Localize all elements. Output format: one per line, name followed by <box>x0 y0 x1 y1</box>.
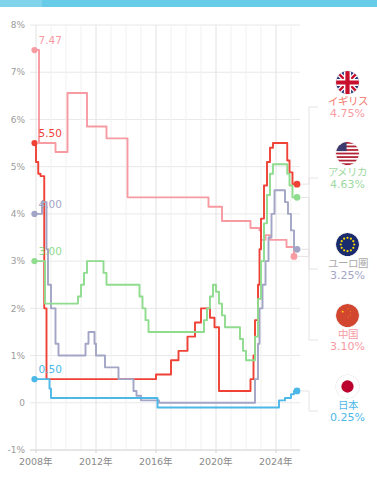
series-start-marker-0[interactable] <box>31 47 37 53</box>
legend-leader-1 <box>301 178 318 184</box>
series-line-0[interactable] <box>35 50 295 256</box>
start-value-label-4: 0.50 <box>39 363 62 375</box>
start-value-label-2: 4.00 <box>39 198 62 210</box>
legend-item-value: 3.10% <box>318 340 377 353</box>
uk-flag-icon <box>336 71 359 94</box>
jp-flag-icon <box>336 375 359 398</box>
series-line-3[interactable] <box>35 164 298 360</box>
legend-item-value: 4.63% <box>318 178 377 191</box>
y-axis-tick-label: 2% <box>11 304 26 314</box>
legend-item-label: アメリカ <box>318 166 377 178</box>
x-axis-tick-label: 2012年 <box>79 456 113 467</box>
legend-item-3[interactable]: 中国3.10% <box>318 304 377 353</box>
legend-leader-4 <box>301 391 318 411</box>
start-value-label-1: 5.50 <box>39 127 62 139</box>
legend-item-label: 日本 <box>318 399 377 411</box>
legend-item-0[interactable]: イギリス4.75% <box>318 71 377 120</box>
start-value-annotations: 7.475.504.003.000.50 <box>39 34 62 375</box>
x-axis-tick-label: 2020年 <box>199 456 233 467</box>
legend-item-1[interactable]: アメリカ4.63% <box>318 142 377 191</box>
y-axis-tick-label: -1% <box>7 445 25 455</box>
legend-leader-lines <box>298 107 318 411</box>
start-value-label-3: 3.00 <box>39 245 62 257</box>
eu-flag-icon <box>336 233 359 256</box>
policy-rate-chart-widget: 8%7%6%5%4%3%2%1%0-1% 2008年2012年2016年2020… <box>0 0 377 482</box>
y-axis-tick-label: 8% <box>11 20 26 30</box>
start-value-label-0: 7.47 <box>39 34 62 46</box>
legend-item-value: 0.25% <box>318 411 377 424</box>
series-start-marker-1[interactable] <box>31 140 37 146</box>
cn-flag-icon <box>336 304 359 327</box>
grid-lines <box>30 25 300 450</box>
uk-flag-icon <box>336 71 359 94</box>
series-end-marker-4[interactable] <box>294 388 301 395</box>
eu-flag-icon <box>336 233 359 256</box>
y-axis-tick-label: 6% <box>11 115 26 125</box>
x-axis-tick-label: 2016年 <box>139 456 173 467</box>
x-axis-ticks: 2008年2012年2016年2020年2024年 <box>19 450 300 467</box>
legend-item-label: 中国 <box>318 328 377 340</box>
y-axis-tick-label: 4% <box>11 209 26 219</box>
y-axis-tick-label: 1% <box>11 351 26 361</box>
series-end-marker-1[interactable] <box>294 181 301 188</box>
legend-item-label: ユーロ圏 <box>318 257 377 269</box>
y-axis-ticks: 8%7%6%5%4%3%2%1%0-1% <box>7 20 25 455</box>
legend-item-2[interactable]: ユーロ圏3.25% <box>318 233 377 282</box>
series-end-marker-0[interactable] <box>291 253 298 260</box>
legend-item-4[interactable]: 日本0.25% <box>318 375 377 424</box>
chart-legend[interactable]: イギリス4.75%アメリカ4.63%ユーロ圏3.25%中国3.10%日本0.25… <box>318 7 377 482</box>
series-start-marker-3[interactable] <box>31 258 37 264</box>
legend-item-value: 4.75% <box>318 107 377 120</box>
us-flag-icon <box>336 142 359 165</box>
x-axis-tick-label: 2008年 <box>19 456 53 467</box>
jp-flag-icon <box>336 375 359 398</box>
top-accent-bar-inner <box>42 0 377 7</box>
y-axis-tick-label: 3% <box>11 256 26 266</box>
series-start-marker-4[interactable] <box>31 376 37 382</box>
legend-item-label: イギリス <box>318 95 377 107</box>
series-start-marker-2[interactable] <box>31 211 37 217</box>
y-axis-tick-label: 0 <box>19 398 25 408</box>
y-axis-tick-label: 5% <box>11 162 26 172</box>
series-end-marker-3[interactable] <box>294 194 301 201</box>
cn-flag-icon <box>336 304 359 327</box>
top-accent-bar <box>0 0 377 7</box>
series-end-marker-2[interactable] <box>294 246 301 253</box>
legend-leader-0 <box>298 107 318 256</box>
legend-item-value: 3.25% <box>318 269 377 282</box>
x-axis-tick-label: 2024年 <box>259 456 293 467</box>
us-flag-icon <box>336 142 359 165</box>
y-axis-tick-label: 7% <box>11 67 26 77</box>
data-series-lines <box>35 50 298 407</box>
